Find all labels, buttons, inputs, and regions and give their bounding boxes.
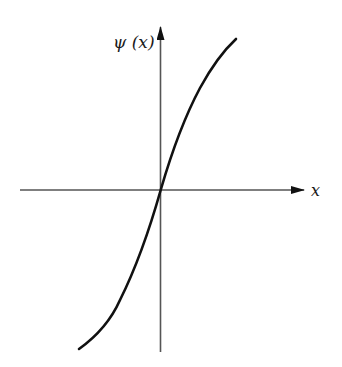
y-axis-label: ψ (x) — [113, 32, 155, 52]
x-axis-label: x — [311, 181, 320, 200]
psi-curve — [79, 39, 236, 349]
plot-canvas: ψ (x) x — [0, 0, 342, 367]
